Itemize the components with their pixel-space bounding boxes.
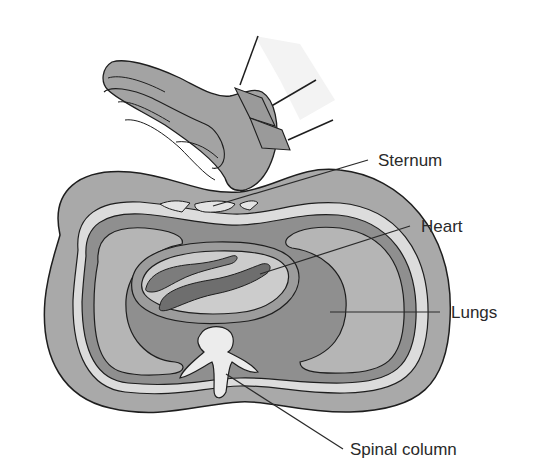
label-spinal-column: Spinal column xyxy=(350,441,457,458)
gloved-hands xyxy=(103,61,290,191)
label-heart: Heart xyxy=(421,218,463,235)
label-sternum: Sternum xyxy=(378,152,442,169)
diagram-illustration xyxy=(0,0,533,475)
label-lungs: Lungs xyxy=(451,304,497,321)
cpr-diagram: Sternum Heart Lungs Spinal column xyxy=(0,0,533,475)
